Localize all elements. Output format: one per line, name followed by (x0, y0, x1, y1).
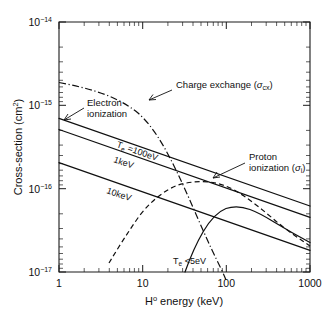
annotation-electron-ionization-line1: Electron (87, 97, 122, 108)
plot-frame (59, 22, 310, 272)
annotation-1kev: 1keV (112, 154, 135, 170)
x-axis-title: Ho energy (keV) (145, 294, 223, 307)
xtick-label-100: 100 (218, 277, 236, 289)
leader-electron-ionization (64, 108, 84, 120)
x-axis-ticks (59, 22, 310, 272)
annotation-proton-ionization-line2: ionization (σi) (249, 162, 305, 174)
curve-charge-exchange (59, 83, 226, 281)
y-tick-labels: 10−14 10−15 10−16 10−17 (28, 16, 52, 278)
y-axis-title: Cross-section (cm2) (11, 99, 24, 195)
curve-electron-ionization-10kev (59, 163, 310, 251)
y-axis-ticks (59, 22, 310, 272)
annotation-te-below-5ev: Te <5eV (173, 256, 206, 267)
xtick-label-1000: 1000 (298, 277, 322, 289)
leader-proton-ionization (213, 163, 245, 178)
ytick-label-1e-16: 10−16 (28, 183, 52, 195)
ytick-label-1e-17: 10−17 (28, 266, 52, 278)
curve-electron-ionization-1kev (59, 130, 310, 218)
ytick-label-1e-15: 10−15 (28, 99, 52, 111)
cross-section-log-log-plot: 10−14 10−15 10−16 10−17 1 10 100 1000 Ho… (0, 0, 336, 323)
annotation-charge-exchange: Charge exchange (σcx) (176, 79, 273, 91)
annotation-electron-ionization-line2: ionization (87, 108, 127, 119)
axes-frame (59, 22, 310, 272)
plot-annotations: Charge exchange (σcx) Electron ionizatio… (87, 79, 305, 267)
x-tick-labels: 1 10 100 1000 (56, 277, 322, 289)
xtick-label-1: 1 (56, 277, 62, 289)
ytick-label-1e-14: 10−14 (28, 16, 52, 28)
annotation-10kev: 10keV (105, 185, 132, 203)
annotation-proton-ionization-line1: Proton (249, 151, 277, 162)
arrowhead-electron-ionization (64, 114, 71, 120)
xtick-label-10: 10 (137, 277, 149, 289)
figure-container: 10−14 10−15 10−16 10−17 1 10 100 1000 Ho… (0, 0, 336, 323)
